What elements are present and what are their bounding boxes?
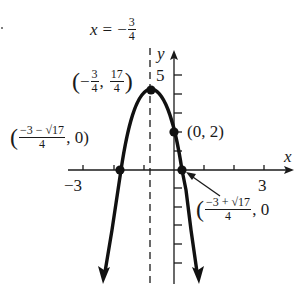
right-root-open-paren: (: [196, 197, 204, 221]
axis-label-num: 3: [128, 16, 136, 30]
left-root-open-paren: (: [10, 125, 18, 149]
vertex-x-num: 3: [91, 68, 99, 82]
right-root-fraction: −3 + √17 4: [205, 196, 251, 222]
right-root-point: [177, 165, 186, 174]
left-root-rest: , 0): [66, 129, 89, 146]
vertex-y-num: 17: [110, 68, 124, 82]
right-root-num: −3 + √17: [205, 196, 251, 210]
tick-label-x3: 3: [258, 177, 267, 194]
y-intercept-point: [169, 127, 178, 136]
axis-of-symmetry-label: x = − 3 4: [90, 16, 137, 42]
right-root-label: ( −3 + √17 4 , 0: [196, 196, 269, 222]
left-root-den: 4: [39, 138, 45, 151]
vertex-label: ( − 3 4 , 17 4 ): [72, 68, 133, 94]
right-root-pointer: [186, 172, 220, 196]
axis-label-eq: =: [103, 21, 113, 38]
vertex-open-paren: (: [72, 69, 80, 93]
vertex-close-paren: ): [125, 69, 133, 93]
parabola-curve: [105, 89, 197, 272]
vertex-y-den: 4: [114, 82, 120, 95]
axis-label-x: x: [90, 21, 98, 38]
x-axis-label: x: [284, 148, 292, 165]
axis-label-fraction: 3 4: [128, 16, 136, 42]
left-root-label: ( −3 − √17 4 , 0): [10, 124, 89, 150]
tick-label-y5: 5: [156, 67, 165, 84]
left-root-fraction: −3 − √17 4: [19, 124, 65, 150]
tick-label-xneg3: −3: [64, 177, 82, 194]
vertex-point: [146, 85, 155, 94]
right-root-den: 4: [225, 210, 231, 223]
edge-mark: [1, 27, 3, 29]
right-root-rest: , 0: [252, 201, 269, 218]
vertex-x-fraction: 3 4: [91, 68, 99, 94]
y-intercept-label: (0, 2): [187, 123, 224, 140]
axis-label-sign: −: [117, 21, 127, 38]
axis-label-den: 4: [129, 30, 135, 43]
vertex-sign: −: [80, 73, 90, 90]
left-root-point: [115, 165, 124, 174]
vertex-y-fraction: 17 4: [110, 68, 124, 94]
vertex-sep: ,: [100, 73, 104, 90]
vertex-x-den: 4: [92, 82, 98, 95]
left-root-num: −3 − √17: [19, 124, 65, 138]
y-axis-label: y: [157, 45, 165, 62]
